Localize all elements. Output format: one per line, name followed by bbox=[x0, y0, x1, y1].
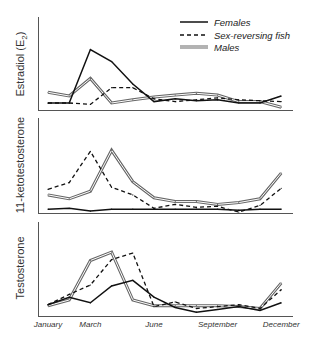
data-point-females-apr bbox=[111, 209, 112, 210]
data-point-males-feb bbox=[69, 299, 70, 300]
series-layer bbox=[47, 150, 281, 213]
data-point-males-dec bbox=[281, 283, 282, 284]
data-point-males-may bbox=[132, 181, 133, 182]
data-point-males-apr bbox=[111, 102, 112, 103]
series-line-females bbox=[48, 208, 281, 211]
data-point-females-nov bbox=[259, 209, 260, 210]
data-point-males-oct bbox=[238, 202, 239, 203]
data-point-females-jun bbox=[153, 297, 154, 298]
testosterone-panel: Testosterone JanuaryMarchJuneSeptemberDe… bbox=[14, 222, 300, 329]
series-line-females bbox=[48, 280, 281, 312]
data-point-sex-reversing-fish-apr bbox=[111, 187, 112, 188]
data-point-females-feb bbox=[69, 297, 70, 298]
data-point-males-aug bbox=[196, 201, 197, 202]
ketotestosterone-panel: 11-ketotestosterone bbox=[14, 117, 293, 214]
data-point-sex-reversing-fish-oct bbox=[238, 304, 239, 305]
data-point-females-jun bbox=[153, 209, 154, 210]
data-point-females-sep bbox=[217, 309, 218, 310]
legend-label: Females bbox=[214, 17, 251, 28]
data-point-males-mar bbox=[90, 78, 91, 79]
data-point-females-jul bbox=[175, 307, 176, 308]
data-point-males-jul bbox=[175, 95, 176, 96]
data-point-females-may bbox=[132, 209, 133, 210]
data-point-females-sep bbox=[217, 209, 218, 210]
data-point-females-aug bbox=[196, 209, 197, 210]
data-point-females-mar bbox=[90, 302, 91, 303]
data-point-females-dec bbox=[281, 302, 282, 303]
data-point-males-oct bbox=[238, 101, 239, 102]
data-point-sex-reversing-fish-sep bbox=[217, 206, 218, 207]
data-point-sex-reversing-fish-mar bbox=[90, 284, 91, 285]
data-point-males-jan bbox=[47, 92, 48, 93]
data-point-males-dec bbox=[281, 173, 282, 174]
x-tick-label-june: June bbox=[144, 320, 163, 329]
y-axis-label: Estradiol (E2) bbox=[14, 32, 29, 97]
data-point-sex-reversing-fish-jan bbox=[47, 189, 48, 190]
data-point-males-feb bbox=[69, 198, 70, 199]
data-point-females-apr bbox=[111, 61, 112, 62]
legend-entry-males: Males bbox=[180, 42, 240, 53]
data-point-females-oct bbox=[238, 102, 239, 103]
series-line-males-outer bbox=[48, 252, 281, 308]
data-point-sex-reversing-fish-jun bbox=[153, 98, 154, 99]
data-point-sex-reversing-fish-feb bbox=[69, 294, 70, 295]
data-point-females-jun bbox=[153, 101, 154, 102]
data-point-sex-reversing-fish-nov bbox=[259, 308, 260, 309]
data-point-males-jul bbox=[175, 305, 176, 306]
data-point-sex-reversing-fish-jul bbox=[175, 301, 176, 302]
data-point-sex-reversing-fish-feb bbox=[69, 182, 70, 183]
data-point-sex-reversing-fish-jul bbox=[175, 204, 176, 205]
hormone-figure: Estradiol (E2) 11-ketotestosterone Testo… bbox=[0, 0, 318, 341]
data-point-females-oct bbox=[238, 210, 239, 211]
data-point-females-jul bbox=[175, 98, 176, 99]
data-point-males-jun bbox=[153, 96, 154, 97]
series-line-males-outer bbox=[48, 150, 281, 204]
data-point-males-nov bbox=[259, 198, 260, 199]
data-point-sex-reversing-fish-nov bbox=[259, 205, 260, 206]
data-point-sex-reversing-fish-aug bbox=[196, 207, 197, 208]
data-point-sex-reversing-fish-oct bbox=[238, 99, 239, 100]
legend-entry-females: Females bbox=[180, 17, 251, 28]
legend: Females Sex-reversing fish Males bbox=[180, 17, 290, 53]
data-point-males-aug bbox=[196, 305, 197, 306]
data-point-females-jan bbox=[47, 304, 48, 305]
data-point-males-dec bbox=[281, 107, 282, 108]
data-point-females-may bbox=[132, 83, 133, 84]
data-point-females-nov bbox=[259, 310, 260, 311]
y-axis-label: Testosterone bbox=[14, 237, 26, 300]
data-point-males-apr bbox=[111, 150, 112, 151]
data-point-males-sep bbox=[217, 204, 218, 205]
data-point-sex-reversing-fish-may bbox=[132, 252, 133, 253]
data-point-sex-reversing-fish-aug bbox=[196, 308, 197, 309]
data-point-males-mar bbox=[90, 260, 91, 261]
data-point-sex-reversing-fish-dec bbox=[281, 289, 282, 290]
data-point-sex-reversing-fish-apr bbox=[111, 259, 112, 260]
data-point-sex-reversing-fish-may bbox=[132, 194, 133, 195]
data-point-males-feb bbox=[69, 95, 70, 96]
data-point-sex-reversing-fish-dec bbox=[281, 101, 282, 102]
x-tick-label-december: December bbox=[263, 320, 300, 329]
data-point-sex-reversing-fish-jul bbox=[175, 101, 176, 102]
data-point-females-sep bbox=[217, 99, 218, 100]
data-point-sex-reversing-fish-sep bbox=[217, 97, 218, 98]
series-line-males-inner bbox=[48, 150, 281, 204]
data-point-sex-reversing-fish-mar bbox=[90, 151, 91, 152]
data-point-females-aug bbox=[196, 100, 197, 101]
data-point-females-dec bbox=[281, 95, 282, 96]
data-point-sex-reversing-fish-sep bbox=[217, 306, 218, 307]
data-point-females-feb bbox=[69, 208, 70, 209]
data-point-males-jan bbox=[47, 194, 48, 195]
data-point-females-may bbox=[132, 280, 133, 281]
data-point-females-jan bbox=[47, 102, 48, 103]
data-point-sex-reversing-fish-jun bbox=[153, 306, 154, 307]
data-point-females-oct bbox=[238, 306, 239, 307]
data-point-females-aug bbox=[196, 312, 197, 313]
data-point-sex-reversing-fish-may bbox=[132, 87, 133, 88]
series-line-males-inner bbox=[48, 252, 281, 308]
data-point-males-sep bbox=[217, 95, 218, 96]
data-point-females-nov bbox=[259, 102, 260, 103]
data-point-males-jun bbox=[153, 197, 154, 198]
x-tick-label-september: September bbox=[198, 320, 237, 329]
legend-label: Sex-reversing fish bbox=[214, 30, 290, 41]
data-point-females-dec bbox=[281, 209, 282, 210]
